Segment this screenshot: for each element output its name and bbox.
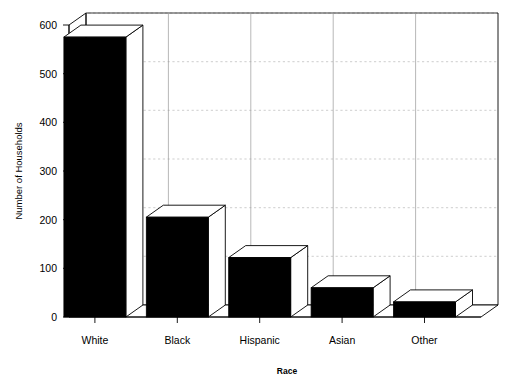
y-tick-labels: 0 100 200 300 400 500 600	[39, 19, 57, 323]
cat-label-asian: Asian	[329, 334, 355, 346]
cat-label-hispanic: Hispanic	[240, 334, 280, 346]
x-tick-marks	[95, 317, 425, 323]
bar-asian	[311, 276, 390, 317]
cat-label-black: Black	[164, 334, 190, 346]
y-tick-label-100: 100	[39, 262, 57, 274]
cat-label-other: Other	[411, 334, 438, 346]
bar-hispanic	[229, 246, 308, 317]
cat-label-white: White	[81, 334, 108, 346]
bar-chart-svg: 0 100 200 300 400 500 600	[0, 0, 508, 388]
x-category-labels: White Black Hispanic Asian Other	[81, 334, 438, 346]
bar-white	[64, 25, 143, 317]
y-axis-title: Number of Households	[13, 122, 24, 219]
bar-other	[394, 290, 473, 317]
y-tick-label-600: 600	[39, 19, 57, 31]
y-tick-label-500: 500	[39, 68, 57, 80]
bar-black	[146, 205, 225, 317]
y-tick-label-400: 400	[39, 116, 57, 128]
y-tick-label-200: 200	[39, 214, 57, 226]
x-axis-title: Race	[277, 366, 298, 376]
y-tick-label-300: 300	[39, 165, 57, 177]
y-tick-label-0: 0	[51, 311, 57, 323]
chart-container: 0 100 200 300 400 500 600	[0, 0, 508, 388]
